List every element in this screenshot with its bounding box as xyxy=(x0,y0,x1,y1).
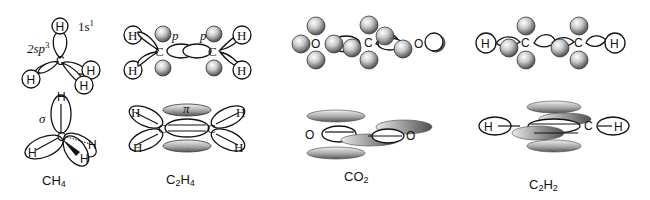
ch4-h-lower-label: H xyxy=(80,79,89,93)
ch4-1s-label: 1s1 xyxy=(78,18,94,34)
c2h4-pi-h1: H xyxy=(131,105,140,120)
ch4-caption: CH4 xyxy=(42,173,66,189)
ch4-h-left-label: H xyxy=(27,73,36,87)
ch4-sigma-h-top: H xyxy=(57,90,66,104)
co2-o-right: O xyxy=(414,37,423,51)
co2-o-left: O xyxy=(311,37,320,51)
c2h4-h1: H xyxy=(128,28,137,43)
c2h2-pi-h-right: H xyxy=(614,120,623,134)
c2h4-p-left-label: p xyxy=(171,28,179,43)
c2h2-h-left: H xyxy=(481,37,490,51)
ch4-sigma-h-lower: H xyxy=(80,152,89,166)
c2h4-caption: C2H4 xyxy=(166,172,195,188)
c2h2-pi-bonds: H C H xyxy=(479,101,629,152)
co2-caption: CO2 xyxy=(344,169,369,185)
ch4-sigma-carbon: C xyxy=(57,130,66,144)
c2h2-c-right: C xyxy=(574,36,583,50)
c2h4-pi-bonds: π H H C H H C xyxy=(126,101,248,156)
c2h4-h3: H xyxy=(237,28,246,43)
c2h4-pi-h4: H xyxy=(234,140,243,155)
ch4-h-right-label: H xyxy=(87,64,96,78)
c2h4-hybrid-orbitals: H H C C H H p p xyxy=(124,26,251,79)
co2-pi-o-left: O xyxy=(305,128,314,142)
co2-hybrid-orbitals: O C O xyxy=(292,16,445,69)
c2h2-pi-h-left: H xyxy=(484,120,493,134)
ch4-h-top-label: H xyxy=(56,20,65,34)
c2h2-caption: C2H2 xyxy=(529,177,558,193)
c2h2-hybrid-orbitals: H C C H xyxy=(476,17,625,69)
c2h4-h2: H xyxy=(128,63,137,78)
c2h4-pi-c-left: C xyxy=(158,121,167,136)
co2-pi-o-right: O xyxy=(406,129,415,143)
c2h4-pi-h3: H xyxy=(236,105,245,120)
c2h4-c-right: C xyxy=(208,44,217,59)
c2h2-c-left: C xyxy=(521,36,530,50)
ch4-carbon-top-label: C xyxy=(56,54,65,68)
c2h2-h-right: H xyxy=(610,37,619,51)
c2h2-pi-c-right: C xyxy=(584,119,593,133)
ch4-2sp3-label: 2sp3 xyxy=(27,40,50,56)
c2h4-h4: H xyxy=(237,63,246,78)
c2h4-pi-label: π xyxy=(183,101,190,116)
ch4-sigma-label: σ xyxy=(39,111,46,126)
c2h4-c-left: C xyxy=(155,44,164,59)
ch4-sigma-h-left: H xyxy=(28,146,37,160)
c2h4-p-right-label: p xyxy=(199,28,207,43)
c2h4-pi-h2: H xyxy=(133,140,142,155)
ch4-sigma-h-right: H xyxy=(88,138,97,152)
ch4-hybrid-orbitals: H H H H C 1s1 2sp3 xyxy=(22,18,100,94)
ch4-sigma-bonds: H H H H C σ xyxy=(22,90,100,171)
co2-pi-bonds: O O xyxy=(305,110,432,159)
co2-c: C xyxy=(364,36,373,50)
orbital-diagram: H H H H C 1s1 2sp3 H H H H C σ H xyxy=(0,0,650,200)
c2h4-pi-c-right: C xyxy=(207,121,216,136)
